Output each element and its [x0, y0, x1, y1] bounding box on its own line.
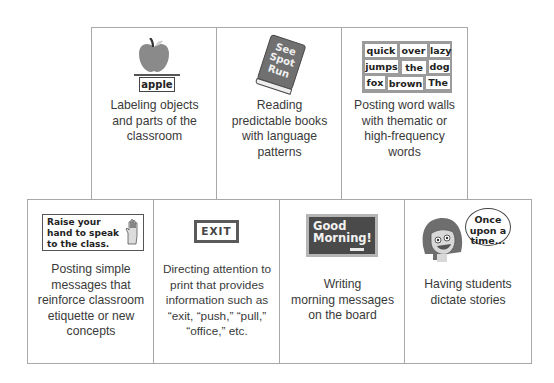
shelf-line: [134, 74, 180, 76]
card-reading: See Spot Run Reading predictable books w…: [216, 27, 343, 200]
word-tile: over: [400, 44, 427, 57]
speech-bubble: Once upon a time...: [465, 208, 511, 246]
caption-simple-messages: Posting simple messages that reinforce c…: [28, 262, 154, 340]
card-simple-messages: Raise your hand to speak to the class. P…: [27, 199, 155, 364]
caption-word-walls: Posting word walls with thematic or high…: [342, 98, 467, 160]
chalkboard: Good Morning!: [306, 214, 378, 257]
caption-labeling: Labeling objects and parts of the classr…: [92, 98, 217, 145]
word-tile: fox: [365, 76, 385, 89]
classroom-sign: Raise your hand to speak to the class.: [42, 214, 144, 251]
word-tile: brown: [388, 77, 423, 90]
girl-storyteller-icon: [417, 216, 469, 266]
apple-label: apple: [139, 77, 175, 92]
apple-icon: [137, 38, 171, 74]
raised-hand-icon: [125, 219, 139, 245]
word-wall: quick over lazy jumps the dog fox brown …: [362, 41, 452, 93]
caption-environmental-print: Directing attention to print that provid…: [154, 262, 280, 340]
card-environmental-print: EXIT Directing attention to print that p…: [153, 199, 281, 364]
caption-morning-messages: Writing morning messages on the board: [280, 277, 405, 324]
exit-sign: EXIT: [194, 220, 239, 243]
word-tile: dog: [429, 60, 450, 73]
card-dictate-stories: Once upon a time... Having students dict…: [404, 199, 532, 364]
card-labeling: apple Labeling objects and parts of the …: [91, 27, 218, 200]
word-tile: the: [402, 61, 426, 74]
caption-reading: Reading predictable books with language …: [217, 98, 342, 160]
sign-text: Raise your hand to speak to the class.: [47, 217, 119, 250]
card-word-walls: quick over lazy jumps the dog fox brown …: [341, 27, 468, 200]
word-tile: The: [426, 76, 450, 89]
word-tile: jumps: [365, 60, 398, 73]
caption-dictate-stories: Having students dictate stories: [405, 277, 531, 308]
chalkboard-text: Good Morning!: [309, 217, 375, 254]
word-tile: quick: [365, 44, 397, 57]
card-morning-messages: Good Morning! Writing morning messages o…: [279, 199, 406, 364]
chalk-eraser: [350, 248, 364, 251]
word-tile: lazy: [430, 44, 450, 57]
book-icon: See Spot Run: [247, 33, 315, 95]
